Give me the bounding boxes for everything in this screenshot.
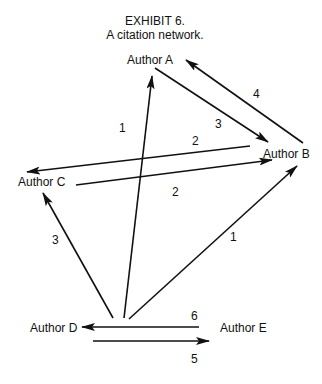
node-author-a: Author A: [127, 53, 173, 67]
edge-a-to-b: [155, 68, 268, 142]
node-author-d: Author D: [30, 321, 77, 335]
weight-b-to-a: 4: [253, 87, 260, 101]
edge-c-to-b: [76, 160, 272, 185]
weight-b-to-c: 2: [192, 134, 199, 148]
weight-a-to-b: 3: [215, 117, 222, 131]
node-author-e: Author E: [220, 321, 267, 335]
node-author-c: Author C: [18, 175, 65, 189]
weight-d-to-e: 5: [191, 352, 198, 366]
exhibit-number: EXHIBIT 6.: [0, 14, 310, 28]
weight-d-to-b: 1: [230, 230, 237, 244]
weight-d-to-a: 1: [119, 121, 126, 135]
weight-e-to-d: 6: [191, 309, 198, 323]
edge-d-to-c: [43, 193, 113, 318]
diagram-title: A citation network.: [0, 28, 310, 42]
weight-d-to-c: 3: [52, 233, 59, 247]
edge-d-to-a: [124, 76, 152, 318]
edge-b-to-a: [186, 60, 303, 143]
edge-b-to-c: [27, 146, 250, 172]
weight-c-to-b: 2: [172, 185, 179, 199]
edge-d-to-b: [129, 166, 297, 319]
node-author-b: Author B: [263, 147, 310, 161]
